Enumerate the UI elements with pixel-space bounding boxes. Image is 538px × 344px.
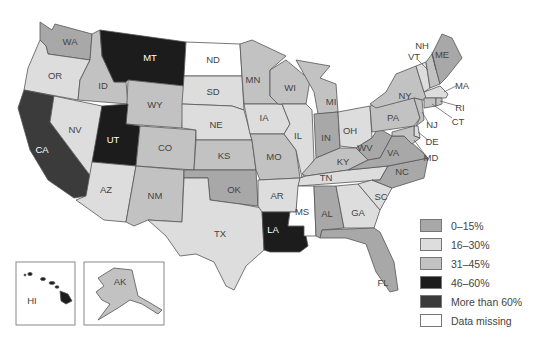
state-label-mn: MN: [246, 74, 261, 85]
state-label-oh: OH: [343, 125, 357, 136]
legend-label: Data missing: [451, 315, 512, 327]
legend: 0–15% 16–30% 31–45% 46–60% More than 60%…: [420, 216, 522, 330]
legend-label: More than 60%: [451, 296, 522, 308]
state-label-al: AL: [321, 208, 333, 219]
legend-label: 46–60%: [451, 277, 490, 289]
legend-item-0-15: 0–15%: [420, 216, 522, 235]
legend-item-31-45: 31–45%: [420, 254, 522, 273]
legend-item-over-60: More than 60%: [420, 292, 522, 311]
legend-item-46-60: 46–60%: [420, 273, 522, 292]
legend-label: 31–45%: [451, 258, 490, 270]
state-label-pa: PA: [387, 112, 400, 123]
state-label-ma: MA: [455, 80, 470, 91]
state-label-fl: FL: [377, 277, 388, 288]
state-label-co: CO: [158, 142, 172, 153]
state-label-ga: GA: [351, 207, 365, 218]
state-label-ks: KS: [218, 150, 231, 161]
state-ri[interactable]: [436, 98, 442, 106]
state-label-sd: SD: [206, 86, 219, 97]
state-label-mt: MT: [143, 52, 157, 63]
legend-swatch: [420, 257, 442, 270]
state-label-la: LA: [267, 224, 279, 235]
state-label-ca: CA: [35, 144, 49, 155]
state-label-sc: SC: [374, 191, 387, 202]
state-label-wi: WI: [284, 82, 296, 93]
legend-label: 16–30%: [451, 239, 490, 251]
state-label-ri: RI: [455, 102, 465, 113]
state-label-tx: TX: [214, 228, 227, 239]
state-label-mi: MI: [326, 96, 337, 107]
state-label-il: IL: [294, 130, 302, 141]
state-label-nh: NH: [415, 40, 429, 51]
state-label-vt: VT: [408, 51, 420, 62]
state-label-id: ID: [98, 80, 108, 91]
state-label-ak: AK: [114, 276, 127, 287]
state-label-nc: NC: [395, 166, 409, 177]
state-label-va: VA: [387, 147, 400, 158]
state-label-ms: MS: [295, 206, 309, 217]
state-label-me: ME: [435, 49, 449, 60]
state-label-tn: TN: [320, 172, 333, 183]
legend-swatch: [420, 295, 442, 308]
state-label-ok: OK: [227, 184, 241, 195]
state-label-ut: UT: [107, 134, 120, 145]
state-label-nv: NV: [68, 124, 82, 135]
state-label-az: AZ: [100, 184, 112, 195]
legend-item-16-30: 16–30%: [420, 235, 522, 254]
state-ct[interactable]: [424, 98, 436, 108]
state-label-hi: HI: [27, 295, 37, 306]
state-label-de: DE: [425, 136, 438, 147]
state-label-or: OR: [48, 70, 62, 81]
state-label-nm: NM: [148, 190, 163, 201]
state-label-ky: KY: [337, 156, 350, 167]
state-label-wa: WA: [63, 36, 79, 47]
state-label-ny: NY: [398, 90, 412, 101]
state-label-ia: IA: [260, 112, 270, 123]
state-label-in: IN: [321, 132, 331, 143]
legend-item-missing: Data missing: [420, 311, 522, 330]
legend-swatch: [420, 219, 442, 232]
state-label-ar: AR: [270, 190, 283, 201]
legend-label: 0–15%: [451, 220, 484, 232]
state-label-ct: CT: [452, 116, 465, 127]
state-label-ne: NE: [209, 119, 222, 130]
state-label-nj: NJ: [426, 119, 438, 130]
state-label-nd: ND: [206, 54, 220, 65]
state-label-mo: MO: [266, 151, 281, 162]
legend-swatch: [420, 314, 442, 327]
state-label-wv: WV: [357, 142, 373, 153]
legend-swatch: [420, 238, 442, 251]
state-label-md: MD: [424, 152, 439, 163]
legend-swatch: [420, 276, 442, 289]
state-label-wy: WY: [147, 99, 163, 110]
